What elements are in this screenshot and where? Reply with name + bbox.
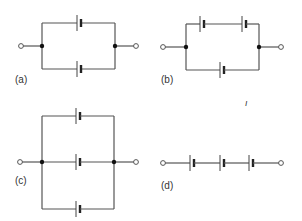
battery-cell-icon xyxy=(77,61,81,77)
terminal-right xyxy=(279,161,284,166)
panel-label-a: (a) xyxy=(15,74,27,85)
battery-cell-icon xyxy=(200,16,204,32)
battery-cell-icon xyxy=(76,108,80,124)
terminal-right xyxy=(134,44,139,49)
junction-node xyxy=(113,44,117,48)
circuit-a xyxy=(19,15,139,77)
panel-label-d: (d) xyxy=(161,180,173,191)
panel-label-b: (b) xyxy=(161,74,173,85)
battery-cell-icon xyxy=(249,155,253,171)
battery-cell-icon xyxy=(220,155,224,171)
junction-node xyxy=(40,44,44,48)
terminal-left xyxy=(19,44,24,49)
circuit-d xyxy=(161,155,284,171)
junction-node xyxy=(40,160,44,164)
circuit-c xyxy=(18,108,139,217)
battery-cell-icon xyxy=(77,15,81,31)
terminal-right xyxy=(134,160,139,165)
terminal-right xyxy=(279,45,284,50)
junction-node xyxy=(184,45,188,49)
circuit-b xyxy=(161,16,284,78)
junction-node xyxy=(112,160,116,164)
battery-cell-icon xyxy=(76,154,80,170)
terminal-left xyxy=(161,45,166,50)
junction-node xyxy=(257,45,261,49)
battery-cell-icon xyxy=(76,201,80,217)
terminal-left xyxy=(161,161,166,166)
circuit-diagrams xyxy=(0,0,302,221)
battery-cell-icon xyxy=(220,62,224,78)
panel-label-c: (c) xyxy=(15,175,27,186)
battery-cell-icon xyxy=(190,155,194,171)
terminal-left xyxy=(18,160,23,165)
battery-cell-icon xyxy=(242,16,246,32)
stray-mark: ı xyxy=(245,98,248,108)
